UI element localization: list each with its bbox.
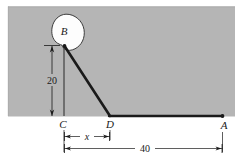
node-B bbox=[63, 44, 67, 48]
statics-diagram: 20 B C D A x 40 bbox=[0, 0, 235, 157]
dim40-label: 40 bbox=[140, 143, 150, 154]
point-label-A: A bbox=[220, 119, 228, 131]
dim20-label: 20 bbox=[47, 75, 57, 86]
node-A bbox=[221, 114, 225, 118]
figure-container: 20 B C D A x 40 bbox=[0, 0, 235, 157]
point-label-D: D bbox=[105, 118, 114, 130]
ground-region bbox=[8, 7, 235, 117]
dimx-label: x bbox=[84, 131, 90, 142]
point-label-B: B bbox=[61, 25, 68, 37]
point-label-C: C bbox=[59, 118, 67, 130]
